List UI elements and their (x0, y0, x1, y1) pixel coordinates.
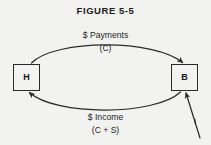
edge-income-label: $ Income (0, 113, 211, 122)
node-business: B (171, 64, 198, 91)
node-household-label: H (23, 73, 30, 82)
edge-income-sublabel: (C + S) (0, 126, 211, 135)
node-business-label: B (181, 73, 188, 82)
edge-investment-label: I (194, 118, 196, 126)
node-household: H (13, 64, 40, 91)
figure-container: FIGURE 5-5 H B $ Payments (C) $ Income (… (0, 0, 211, 145)
edge-income-arc (30, 92, 181, 110)
edge-payments-label: $ Payments (0, 31, 211, 40)
edge-payments-sublabel: (C) (0, 44, 211, 53)
